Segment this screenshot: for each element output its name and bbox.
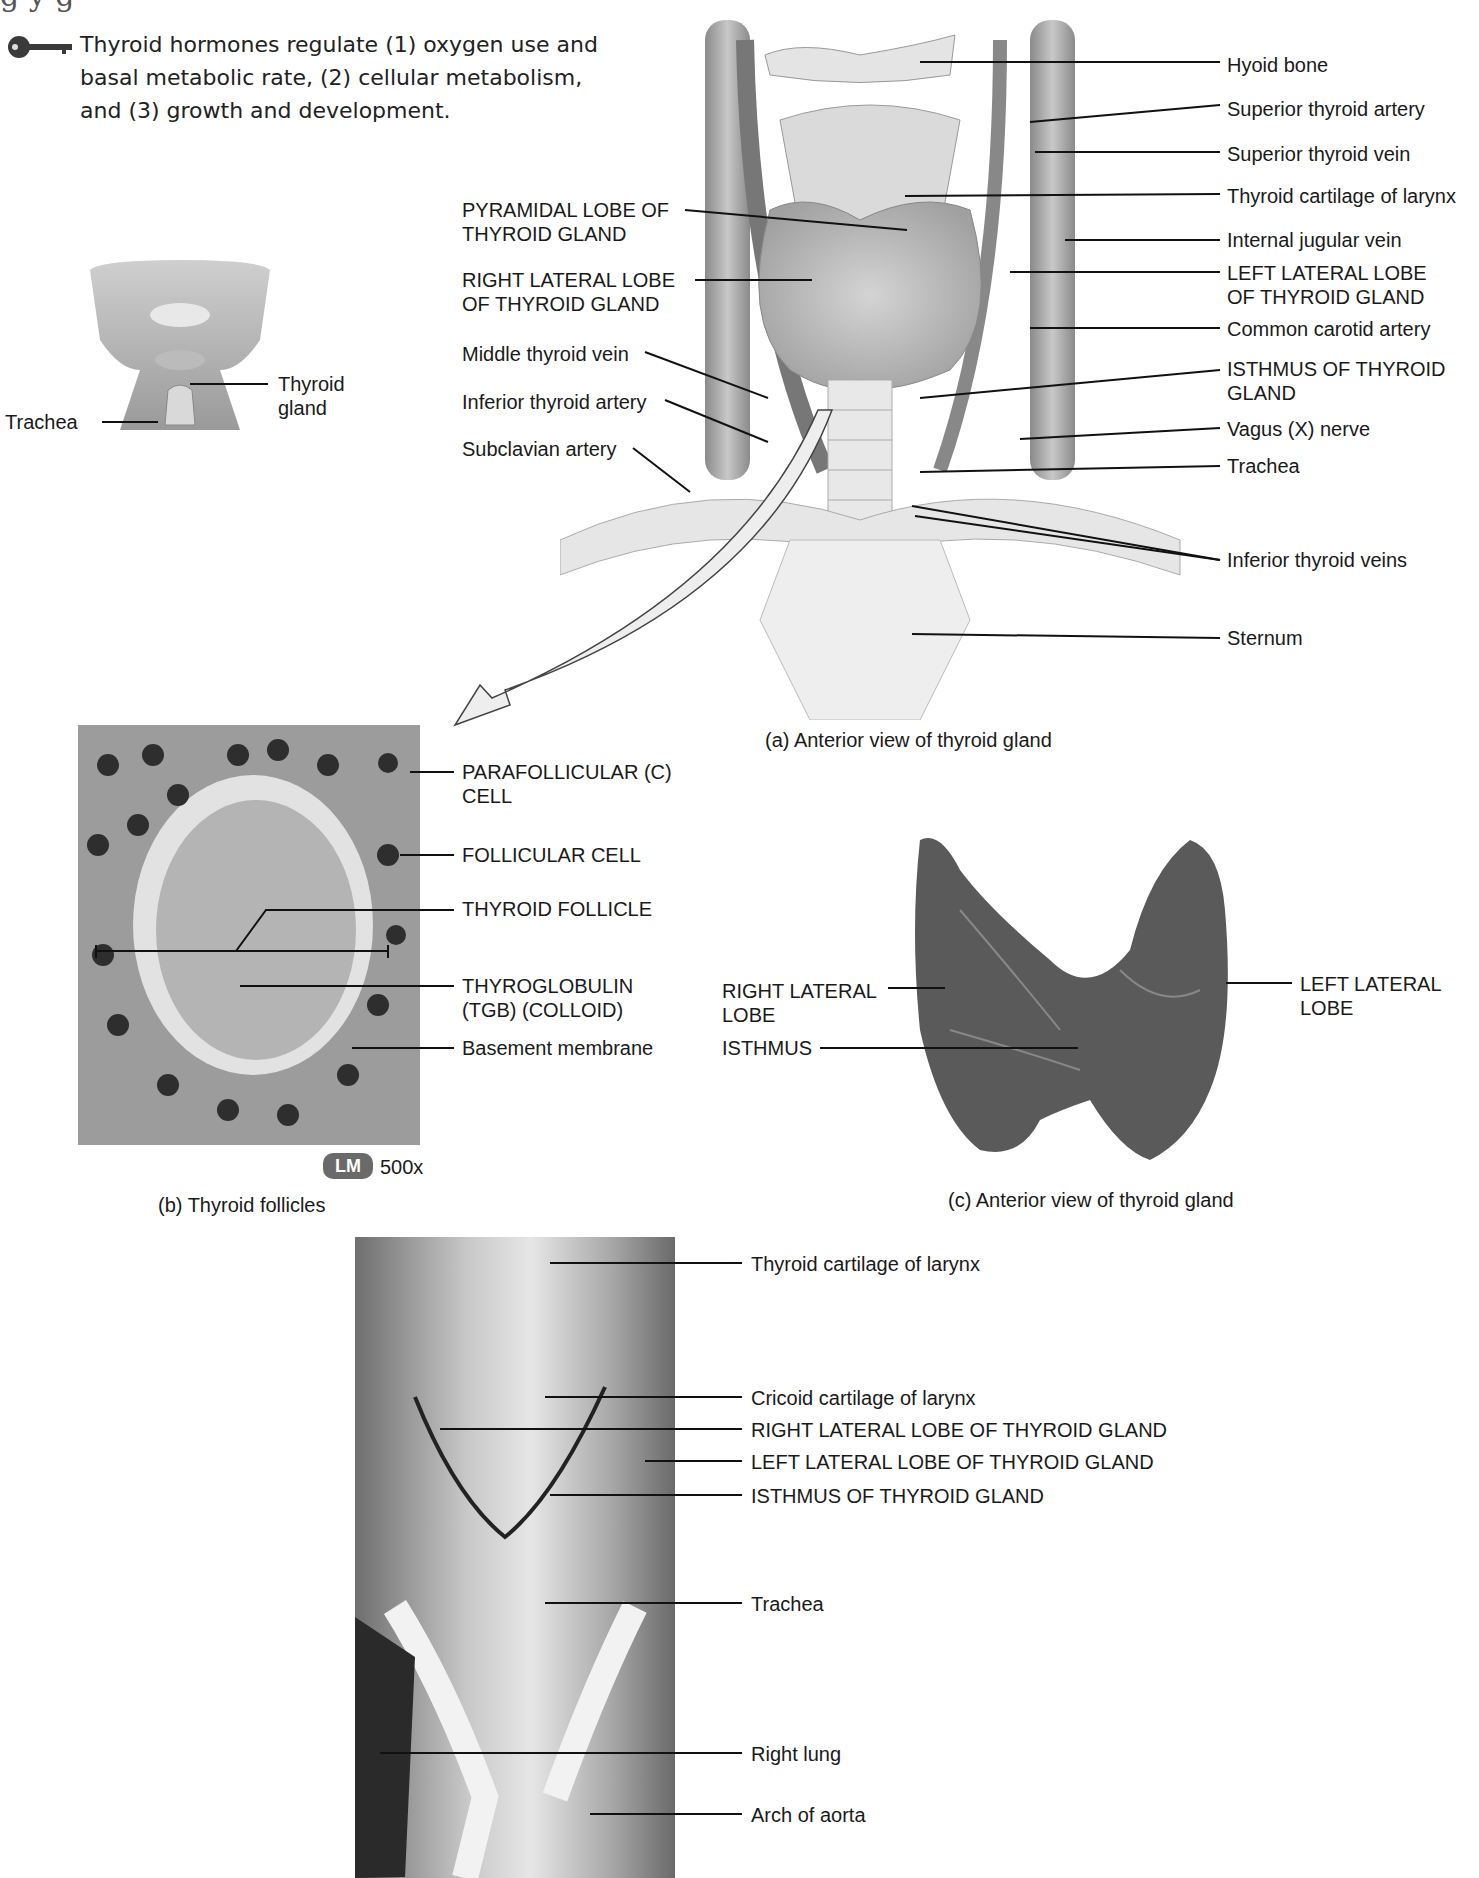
label-d-thyroid-cartilage: Thyroid cartilage of larynx — [751, 1252, 980, 1276]
label-inferior-thyroid-artery: Inferior thyroid artery — [462, 390, 647, 414]
label-c-isthmus: ISTHMUS — [722, 1036, 812, 1060]
caption-panel-c: (c) Anterior view of thyroid gland — [948, 1188, 1234, 1212]
neck-inset-illustration — [80, 260, 280, 430]
caption-panel-a: (a) Anterior view of thyroid gland — [765, 728, 1052, 752]
label-d-right-lateral-lobe: RIGHT LATERAL LOBE OF THYROID GLAND — [751, 1418, 1167, 1442]
label-thyroid-follicle: THYROID FOLLICLE — [462, 897, 652, 921]
label-d-right-lung: Right lung — [751, 1742, 841, 1766]
label-d-cricoid-cartilage: Cricoid cartilage of larynx — [751, 1386, 976, 1410]
inset-label-thyroid-gland: Thyroid gland — [278, 372, 345, 420]
label-right-lateral-lobe: RIGHT LATERAL LOBE OF THYROID GLAND — [462, 268, 675, 316]
label-hyoid-bone: Hyoid bone — [1227, 53, 1328, 77]
label-parafollicular-cell: PARAFOLLICULAR (C) CELL — [462, 760, 672, 808]
key-icon — [6, 34, 76, 60]
label-d-trachea: Trachea — [751, 1592, 824, 1616]
label-follicular-cell: FOLLICULAR CELL — [462, 843, 641, 867]
label-c-left-lateral-lobe: LEFT LATERAL LOBE — [1300, 972, 1442, 1020]
thyroid-follicle-micrograph — [78, 725, 420, 1145]
caption-panel-b: (b) Thyroid follicles — [158, 1193, 325, 1217]
label-d-arch-of-aorta: Arch of aorta — [751, 1803, 866, 1827]
label-subclavian-artery: Subclavian artery — [462, 437, 617, 461]
label-superior-thyroid-vein: Superior thyroid vein — [1227, 142, 1410, 166]
inset-label-trachea: Trachea — [5, 410, 78, 434]
label-thyroid-cartilage: Thyroid cartilage of larynx — [1227, 184, 1456, 208]
label-trachea: Trachea — [1227, 454, 1300, 478]
label-sternum: Sternum — [1227, 626, 1303, 650]
label-common-carotid-artery: Common carotid artery — [1227, 317, 1430, 341]
label-internal-jugular-vein: Internal jugular vein — [1227, 228, 1402, 252]
magnification-label: 500x — [380, 1155, 423, 1179]
intro-text: Thyroid hormones regulate (1) oxygen use… — [80, 28, 620, 127]
label-thyroglobulin: THYROGLOBULIN (TGB) (COLLOID) — [462, 974, 633, 1022]
label-vagus-nerve: Vagus (X) nerve — [1227, 417, 1370, 441]
lm-badge: LM — [323, 1153, 373, 1179]
label-inferior-thyroid-veins: Inferior thyroid veins — [1227, 548, 1407, 572]
label-pyramidal-lobe: PYRAMIDAL LOBE OF THYROID GLAND — [462, 198, 669, 246]
label-isthmus: ISTHMUS OF THYROID GLAND — [1227, 357, 1446, 405]
label-left-lateral-lobe: LEFT LATERAL LOBE OF THYROID GLAND — [1227, 261, 1427, 309]
figure-heading-fragment: g y g — [0, 0, 74, 13]
neck-dissection-photo — [355, 1237, 675, 1878]
thyroid-anterior-illustration — [560, 0, 1260, 720]
label-superior-thyroid-artery: Superior thyroid artery — [1227, 97, 1425, 121]
label-middle-thyroid-vein: Middle thyroid vein — [462, 342, 629, 366]
label-basement-membrane: Basement membrane — [462, 1036, 653, 1060]
label-d-isthmus: ISTHMUS OF THYROID GLAND — [751, 1484, 1044, 1508]
label-c-right-lateral-lobe: RIGHT LATERAL LOBE — [722, 979, 877, 1027]
label-d-left-lateral-lobe: LEFT LATERAL LOBE OF THYROID GLAND — [751, 1450, 1154, 1474]
thyroid-gland-photo — [900, 830, 1270, 1170]
